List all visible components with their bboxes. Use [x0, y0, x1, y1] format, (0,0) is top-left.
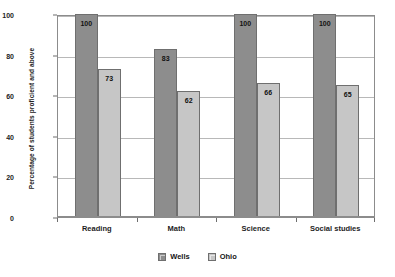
x-axis-tickmark — [57, 218, 58, 222]
y-axis-tick-label: 20 — [0, 174, 14, 181]
x-axis-label-social-studies: Social studies — [310, 224, 360, 233]
bar-value-label: 73 — [105, 75, 113, 82]
bar-value-label: 100 — [319, 20, 331, 27]
wells-swatch — [158, 253, 166, 261]
x-axis-labels: ReadingMathScienceSocial studies — [57, 224, 375, 238]
x-axis-tickmarks — [57, 218, 375, 223]
bar-wells-reading: 100 — [75, 14, 98, 217]
bar-wells-math: 83 — [154, 49, 177, 217]
bar-group: 10066 — [217, 16, 297, 217]
bar-group: 10065 — [297, 16, 377, 217]
bar-group: 10073 — [58, 16, 138, 217]
ohio-swatch — [208, 253, 216, 261]
bar-ohio-reading: 73 — [98, 69, 121, 217]
bar-value-label: 83 — [162, 55, 170, 62]
legend-item-wells[interactable]: Wells — [158, 252, 189, 261]
bar-value-label: 62 — [185, 97, 193, 104]
bar-ohio-math: 62 — [177, 91, 200, 217]
bar-groups: 1007383621006610065 — [58, 16, 374, 217]
legend-item-ohio[interactable]: Ohio — [208, 252, 237, 261]
x-axis-label-reading: Reading — [82, 224, 112, 233]
bar-value-label: 100 — [80, 20, 92, 27]
bar-value-label: 66 — [264, 89, 272, 96]
y-axis-tick-label: 100 — [0, 12, 14, 19]
x-axis-baseline — [58, 216, 374, 217]
bar-wells-social-studies: 100 — [313, 14, 336, 217]
y-axis-tick-label: 80 — [0, 52, 14, 59]
bar-value-label: 65 — [344, 91, 352, 98]
bar-group: 8362 — [138, 16, 218, 217]
grouped-bar-chart: Percentage of students proficient and ab… — [0, 0, 395, 277]
x-axis-label-math: Math — [168, 224, 186, 233]
legend-label: Ohio — [220, 252, 237, 261]
bar-ohio-science: 66 — [257, 83, 280, 217]
legend-label: Wells — [170, 252, 189, 261]
y-axis-tick-label: 40 — [0, 133, 14, 140]
x-axis-label-science: Science — [242, 224, 270, 233]
chart-legend: WellsOhio — [0, 252, 395, 261]
y-axis-title: Percentage of students proficient and ab… — [28, 19, 35, 219]
x-axis-tickmark — [216, 218, 217, 222]
x-axis-tickmark — [137, 218, 138, 222]
y-axis-tick-label: 0 — [0, 215, 14, 222]
bar-ohio-social-studies: 65 — [336, 85, 359, 217]
bar-value-label: 100 — [239, 20, 251, 27]
x-axis-tickmark — [374, 218, 375, 222]
bar-wells-science: 100 — [234, 14, 257, 217]
x-axis-tickmark — [296, 218, 297, 222]
plot-area: 1007383621006610065 — [57, 15, 375, 218]
y-axis-tick-label: 60 — [0, 93, 14, 100]
